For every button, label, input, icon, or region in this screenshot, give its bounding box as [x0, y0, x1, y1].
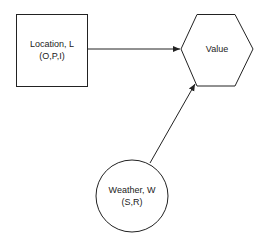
- location-node: Location, L (O,P,I): [17, 15, 88, 87]
- location-states: (O,P,I): [39, 51, 64, 61]
- weather-states: (S,R): [122, 197, 143, 207]
- location-label: Location, L: [30, 39, 74, 49]
- weather-node: Weather, W (S,R): [96, 160, 168, 232]
- edge-weather-to-value: [150, 84, 195, 163]
- influence-diagram: Location, L (O,P,I) Value Weather, W (S,…: [0, 0, 266, 237]
- value-label: Value: [206, 44, 228, 54]
- value-node: Value: [181, 15, 253, 87]
- weather-label: Weather, W: [109, 185, 156, 195]
